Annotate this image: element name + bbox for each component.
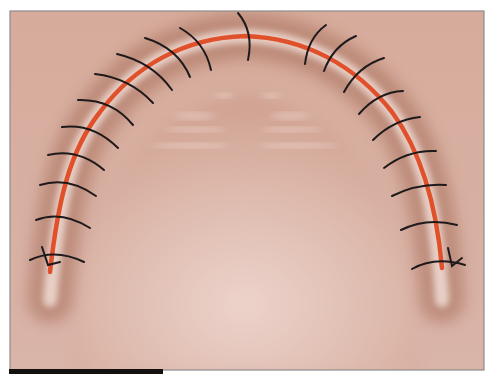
ruga <box>270 113 310 119</box>
ruga <box>150 143 230 148</box>
figure-canvas <box>10 11 484 374</box>
bottom-bar <box>9 369 163 374</box>
ruga <box>165 127 225 132</box>
ruga <box>175 113 215 119</box>
sutured-palate-illustration <box>0 0 488 374</box>
ruga <box>262 127 322 132</box>
ruga <box>258 143 338 148</box>
ruga <box>215 93 233 98</box>
ruga <box>262 93 280 98</box>
